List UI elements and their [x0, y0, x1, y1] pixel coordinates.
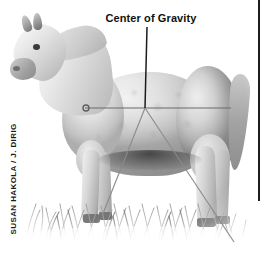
- horse-photograph: [0, 0, 250, 257]
- center-of-gravity-figure: Center of Gravity SUSAN HAKOLA / J. DIRI…: [0, 0, 266, 257]
- photo-vignette: [0, 0, 250, 257]
- photo-credit: SUSAN HAKOLA / J. DIRIG: [9, 115, 18, 235]
- right-vertical-rule: [258, 0, 260, 201]
- center-of-gravity-label: Center of Gravity: [101, 12, 201, 24]
